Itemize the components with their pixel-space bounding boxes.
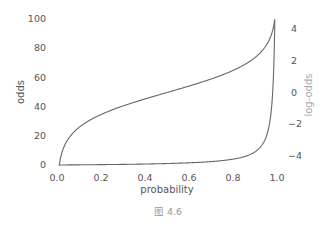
- y-axis-ticks: 0 20 40 60 80 100: [28, 13, 46, 170]
- x-tick: 0.8: [225, 172, 240, 183]
- y-axis-label: odds: [15, 80, 26, 104]
- x-tick: 0.4: [137, 172, 152, 183]
- y2-tick: −2: [288, 118, 302, 129]
- y-tick: 40: [34, 101, 46, 112]
- y-tick: 0: [40, 159, 46, 170]
- y2-tick: 4: [291, 23, 297, 34]
- figure-caption: 图 4.6: [154, 206, 182, 217]
- x-tick: 0.2: [93, 172, 108, 183]
- x-tick: 1.0: [269, 172, 284, 183]
- y2-axis-ticks: −4 −2 0 2 4: [288, 23, 302, 161]
- x-tick: 0.0: [49, 172, 64, 183]
- y-tick: 60: [34, 72, 46, 83]
- log-odds-curve: [59, 19, 275, 165]
- y-tick: 20: [34, 130, 46, 141]
- x-tick: 0.6: [181, 172, 196, 183]
- y-tick: 80: [34, 42, 46, 53]
- chart: 0 20 40 60 80 100 odds 0.0 0.2 0.4 0.6 0…: [0, 0, 329, 226]
- y-tick: 100: [28, 13, 46, 24]
- y2-axis-label: log-odds: [303, 73, 314, 116]
- x-axis-label: probability: [140, 184, 193, 195]
- x-axis-ticks: 0.0 0.2 0.4 0.6 0.8 1.0: [49, 172, 284, 183]
- y2-tick: 0: [291, 87, 297, 98]
- y2-tick: 2: [291, 55, 297, 66]
- y2-tick: −4: [288, 150, 302, 161]
